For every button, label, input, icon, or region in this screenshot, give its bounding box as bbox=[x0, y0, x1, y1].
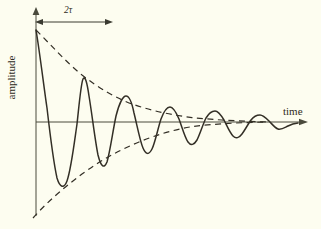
x-axis-arrowhead-icon bbox=[299, 119, 308, 126]
y-axis bbox=[33, 7, 40, 216]
damped-oscillation-curve bbox=[36, 30, 298, 186]
x-axis-label: time bbox=[283, 106, 303, 117]
time-constant-measure-arrow bbox=[35, 19, 113, 25]
upper-envelope-curve bbox=[36, 30, 266, 122]
time-constant-label: 2τ bbox=[64, 6, 72, 16]
y-axis-arrowhead-icon bbox=[33, 7, 40, 15]
plot-canvas bbox=[0, 0, 321, 229]
y-axis-label: amplitude bbox=[6, 47, 17, 109]
damped-oscillation-figure: amplitude time 2τ bbox=[0, 0, 321, 229]
lower-envelope-curve bbox=[33, 122, 266, 218]
measure-arrowhead-right-icon bbox=[105, 19, 113, 25]
